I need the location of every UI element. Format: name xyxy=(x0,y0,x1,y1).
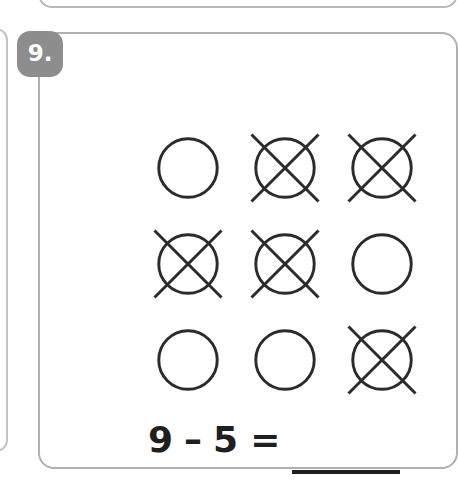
circle-crossed-out-icon xyxy=(242,221,328,307)
answer-blank-input[interactable] xyxy=(292,436,400,474)
circle-icon xyxy=(339,221,425,307)
equation-row: 9 – 5 = xyxy=(148,412,438,468)
circle-crossed-out-icon xyxy=(145,221,231,307)
question-number-label: 9. xyxy=(28,42,53,65)
adjacent-column-card-edge xyxy=(0,28,8,452)
circle-icon xyxy=(242,317,328,403)
counter-cell-3[interactable] xyxy=(333,120,430,216)
equation-equals-sign: = xyxy=(250,422,280,458)
question-number-badge: 9. xyxy=(17,31,63,77)
counter-cell-1[interactable] xyxy=(140,120,237,216)
circle-icon xyxy=(145,125,231,211)
counter-cell-9[interactable] xyxy=(333,312,430,408)
counter-cell-8[interactable] xyxy=(237,312,334,408)
circle-crossed-out-icon xyxy=(339,125,425,211)
equation-minuend: 9 xyxy=(148,422,173,458)
circle-crossed-out-icon xyxy=(339,317,425,403)
circle-crossed-out-icon xyxy=(242,125,328,211)
equation-subtrahend: 5 xyxy=(213,422,238,458)
counter-cell-7[interactable] xyxy=(140,312,237,408)
counter-cell-4[interactable] xyxy=(140,216,237,312)
counter-grid xyxy=(140,120,430,408)
counter-cell-5[interactable] xyxy=(237,216,334,312)
circle-icon xyxy=(145,317,231,403)
counter-cell-2[interactable] xyxy=(237,120,334,216)
question-card: 9 – 5 = xyxy=(38,32,458,469)
previous-question-card-edge xyxy=(38,0,458,8)
counter-cell-6[interactable] xyxy=(333,216,430,312)
equation-operator: – xyxy=(184,422,202,458)
